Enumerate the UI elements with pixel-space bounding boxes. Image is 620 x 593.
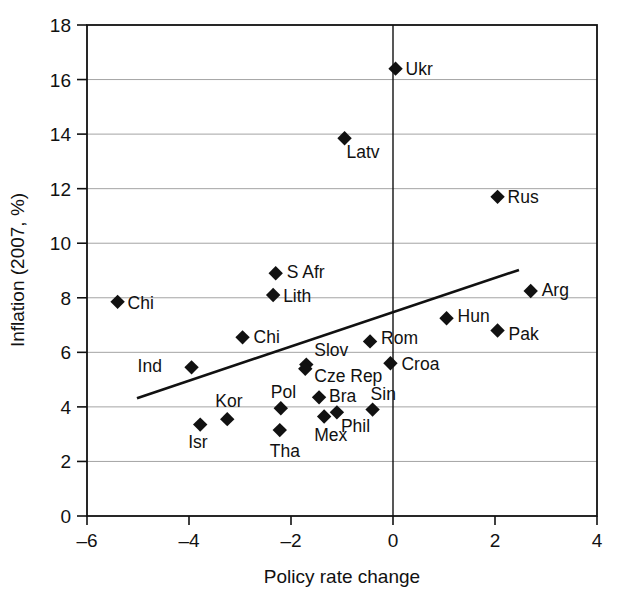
point-label: Kor [215, 391, 242, 411]
x-tick-label: –4 [178, 530, 200, 551]
data-point: Hun [439, 306, 489, 326]
diamond-marker [184, 360, 198, 374]
diamond-marker [274, 401, 288, 415]
data-point: Croa [383, 354, 439, 374]
point-label: Isr [188, 432, 208, 452]
point-label: Hun [458, 306, 490, 326]
y-tick-label: 10 [50, 233, 71, 254]
data-point: Mex [314, 409, 347, 445]
point-label: S Afr [287, 262, 325, 282]
data-point: Bra [312, 386, 357, 406]
y-axis-ticks: 024681012141618 [50, 15, 87, 527]
point-label: Pol [271, 382, 296, 402]
data-point: Lith [266, 286, 311, 306]
diamond-marker [388, 61, 402, 75]
data-point: Tha [270, 423, 300, 461]
x-axis-title: Policy rate change [264, 566, 420, 587]
diamond-marker [365, 402, 379, 416]
diamond-marker [363, 334, 377, 348]
point-label: Arg [542, 280, 569, 300]
diamond-marker [266, 288, 280, 302]
point-label: Chi [254, 327, 280, 347]
diamond-marker [439, 311, 453, 325]
diamond-marker [273, 423, 287, 437]
y-tick-label: 2 [60, 451, 71, 472]
data-point: Sin [365, 384, 395, 417]
x-tick-label: 0 [388, 530, 399, 551]
chart-svg: –6–4–2024 024681012141618 UkrLatvRusS Af… [0, 0, 620, 593]
point-label: Pak [509, 324, 539, 344]
y-tick-label: 6 [60, 342, 71, 363]
data-point: Pak [490, 323, 539, 343]
x-tick-label: –2 [280, 530, 301, 551]
data-point: Rus [490, 187, 539, 207]
y-axis-title: Inflation (2007, %) [7, 193, 28, 347]
diamond-marker [317, 409, 331, 423]
data-point: S Afr [269, 262, 325, 282]
x-tick-label: 4 [592, 530, 603, 551]
diamond-marker [490, 190, 504, 204]
data-point: Rom [363, 328, 418, 348]
point-label: Slov [314, 340, 348, 360]
point-label: Sin [371, 384, 396, 404]
point-label: Bra [329, 386, 357, 406]
y-tick-label: 8 [60, 288, 71, 309]
diamond-marker [235, 330, 249, 344]
x-tick-label: 2 [490, 530, 501, 551]
y-tick-label: 12 [50, 179, 71, 200]
diamond-marker [110, 295, 124, 309]
point-label: Ukr [406, 59, 433, 79]
diamond-marker [383, 356, 397, 370]
diamond-marker [220, 412, 234, 426]
y-tick-label: 16 [50, 70, 71, 91]
x-axis-ticks: –6–4–2024 [76, 516, 602, 551]
y-tick-label: 14 [50, 124, 72, 145]
diamond-marker [524, 284, 538, 298]
data-point: Ukr [388, 59, 433, 79]
point-label: Lith [283, 286, 311, 306]
data-point: Pol [271, 382, 296, 415]
data-point: Kor [215, 391, 242, 426]
data-point: Isr [188, 417, 208, 451]
data-point: Arg [524, 280, 569, 300]
data-point: Latv [337, 131, 380, 162]
point-label: Mex [314, 425, 347, 445]
point-label: Latv [347, 142, 380, 162]
scatter-chart: –6–4–2024 024681012141618 UkrLatvRusS Af… [0, 0, 620, 593]
diamond-marker [490, 323, 504, 337]
data-points: UkrLatvRusS AfrArgLithChiHunPakChiRomSlo… [110, 59, 569, 461]
x-tick-label: –6 [76, 530, 97, 551]
y-tick-label: 4 [60, 397, 71, 418]
point-label: Rus [508, 187, 539, 207]
diamond-marker [193, 417, 207, 431]
point-label: Croa [401, 354, 439, 374]
data-point: Ind [138, 356, 199, 376]
diamond-marker [269, 266, 283, 280]
y-tick-label: 18 [50, 15, 71, 36]
point-label: Chi [128, 293, 154, 313]
data-point: Chi [235, 327, 279, 347]
y-tick-label: 0 [60, 506, 71, 527]
point-label: Ind [138, 356, 162, 376]
diamond-marker [312, 390, 326, 404]
point-label: Tha [270, 441, 300, 461]
data-point: Chi [110, 293, 153, 313]
point-label: Rom [381, 328, 418, 348]
